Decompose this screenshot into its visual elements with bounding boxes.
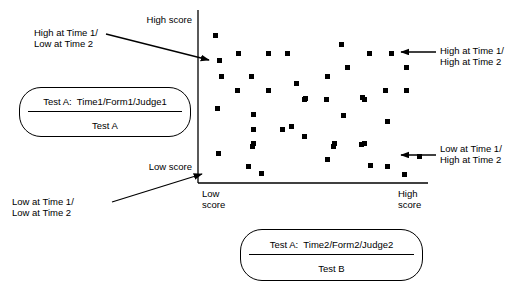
data-point bbox=[385, 119, 390, 124]
test-b-key: Test A: Time2/Form2/Judge2Test B bbox=[240, 229, 423, 281]
figure-container: High score Low score Low score High scor… bbox=[0, 0, 523, 291]
arrow-high-time1-low-time2 bbox=[106, 34, 209, 60]
test-b-key-bottom-text: Test B bbox=[241, 263, 422, 274]
data-point bbox=[246, 164, 251, 169]
data-point bbox=[339, 42, 344, 47]
x-axis-left-label-line1: Low bbox=[202, 188, 219, 200]
data-point bbox=[280, 127, 285, 132]
x-axis-right-label-line1: High bbox=[398, 188, 418, 200]
test-b-key-top-text: Test A: Time2/Form2/Judge2 bbox=[241, 239, 422, 250]
label-low-time1-low-time2-line2: Low at Time 2 bbox=[12, 207, 71, 219]
data-point bbox=[215, 106, 220, 111]
data-point bbox=[219, 74, 224, 79]
test-a-key: Test A: Time1/Form1/Judge1Test A bbox=[19, 87, 191, 137]
data-point bbox=[325, 74, 330, 79]
data-point bbox=[325, 157, 330, 162]
data-point bbox=[417, 154, 422, 159]
label-high-time1-high-time2-line2: High at Time 2 bbox=[440, 56, 501, 68]
data-point bbox=[383, 88, 388, 93]
test-a-key-top-text: Test A: Time1/Form1/Judge1 bbox=[20, 96, 190, 107]
data-point bbox=[285, 51, 290, 56]
data-point bbox=[345, 65, 350, 70]
data-point bbox=[259, 171, 264, 176]
data-point bbox=[289, 124, 294, 129]
data-point bbox=[362, 97, 367, 102]
test-a-key-bottom-text: Test A bbox=[20, 120, 190, 131]
label-low-time1-high-time2-line1: Low at Time 1/ bbox=[440, 143, 502, 155]
data-point bbox=[251, 127, 256, 132]
data-point bbox=[402, 172, 407, 177]
y-axis-top-label: High score bbox=[100, 14, 192, 26]
data-point bbox=[332, 141, 337, 146]
data-point bbox=[213, 33, 218, 38]
label-low-time1-low-time2-line1: Low at Time 1/ bbox=[12, 196, 74, 208]
label-high-time1-high-time2-line1: High at Time 1/ bbox=[440, 45, 504, 57]
data-point bbox=[249, 74, 254, 79]
x-axis-right-label-line2: score bbox=[398, 199, 421, 211]
data-point bbox=[266, 88, 271, 93]
data-point bbox=[217, 58, 222, 63]
label-high-time1-low-time2-line2: Low at Time 2 bbox=[34, 38, 93, 50]
data-point bbox=[266, 51, 271, 56]
data-point bbox=[367, 51, 372, 56]
data-point bbox=[302, 134, 307, 139]
label-low-time1-high-time2-line2: High at Time 2 bbox=[440, 154, 501, 166]
data-point bbox=[236, 51, 241, 56]
data-point bbox=[294, 81, 299, 86]
data-point bbox=[235, 88, 240, 93]
data-point bbox=[251, 112, 256, 117]
data-point bbox=[385, 164, 390, 169]
test-a-key-divider bbox=[28, 111, 182, 112]
test-b-key-divider bbox=[249, 254, 414, 255]
data-point bbox=[302, 97, 307, 102]
axes bbox=[198, 10, 428, 183]
data-point bbox=[389, 51, 394, 56]
data-point bbox=[250, 144, 255, 149]
data-point bbox=[404, 88, 409, 93]
x-axis-left-label-line2: score bbox=[202, 199, 225, 211]
data-point bbox=[362, 141, 367, 146]
data-point bbox=[324, 97, 329, 102]
data-point bbox=[404, 65, 409, 70]
data-point bbox=[368, 163, 373, 168]
data-point bbox=[216, 151, 221, 156]
label-high-time1-low-time2-line1: High at Time 1/ bbox=[34, 27, 98, 39]
y-axis-bottom-label: Low score bbox=[100, 161, 192, 173]
arrow-low-time1-low-time2 bbox=[112, 174, 202, 202]
data-point bbox=[341, 113, 346, 118]
